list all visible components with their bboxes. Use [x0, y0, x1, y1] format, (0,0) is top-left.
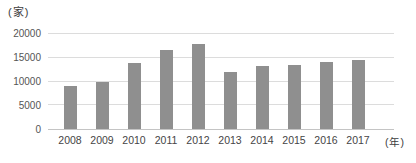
- bar-slot: [310, 34, 342, 129]
- y-axis: 05000100001500020000: [0, 34, 48, 130]
- y-tick-label: 10000: [13, 76, 41, 88]
- bar-2015: [288, 65, 301, 129]
- bar-slot: [54, 34, 86, 129]
- bar-slot: [342, 34, 374, 129]
- x-tick-label: 2012: [182, 134, 214, 146]
- bar-slot: [182, 34, 214, 129]
- bar-slot: [214, 34, 246, 129]
- x-tick-label: 2010: [118, 134, 150, 146]
- x-tick-label: 2008: [54, 134, 86, 146]
- bar-2009: [96, 82, 109, 130]
- bar-2013: [224, 72, 237, 129]
- bar-2011: [160, 50, 173, 129]
- bar-2014: [256, 66, 269, 129]
- y-tick-label: 15000: [13, 52, 41, 64]
- bar-slot: [86, 34, 118, 129]
- x-tick-label: 2015: [278, 134, 310, 146]
- bar-slot: [118, 34, 150, 129]
- bar-2008: [64, 86, 77, 129]
- bar-slot: [278, 34, 310, 129]
- x-axis: 2008200920102011201220132014201520162017…: [48, 130, 394, 146]
- y-tick-label: 5000: [19, 100, 41, 112]
- x-tick-label: 2009: [86, 134, 118, 146]
- y-tick-label: 20000: [13, 28, 41, 40]
- bar-slot: [246, 34, 278, 129]
- bar-chart-figure: (家) 05000100001500020000 200820092010201…: [0, 0, 416, 163]
- bar-2010: [128, 63, 141, 130]
- x-tick-label: 2013: [214, 134, 246, 146]
- x-axis-unit-label: (年): [385, 134, 405, 149]
- x-tick-label: 2016: [310, 134, 342, 146]
- x-tick-label: 2014: [246, 134, 278, 146]
- y-axis-unit-label: (家): [8, 3, 29, 19]
- bar-slot: [150, 34, 182, 129]
- chart-row: 05000100001500020000 2008200920102011201…: [0, 34, 394, 146]
- bar-2017: [352, 60, 365, 129]
- plot-area: [48, 34, 394, 130]
- x-tick-label: 2017: [342, 134, 374, 146]
- plot-wrap: 2008200920102011201220132014201520162017…: [48, 34, 394, 146]
- x-tick-label: 2011: [150, 134, 182, 146]
- bar-2012: [192, 44, 205, 130]
- y-tick-label: 0: [35, 124, 41, 136]
- bar-2016: [320, 62, 333, 129]
